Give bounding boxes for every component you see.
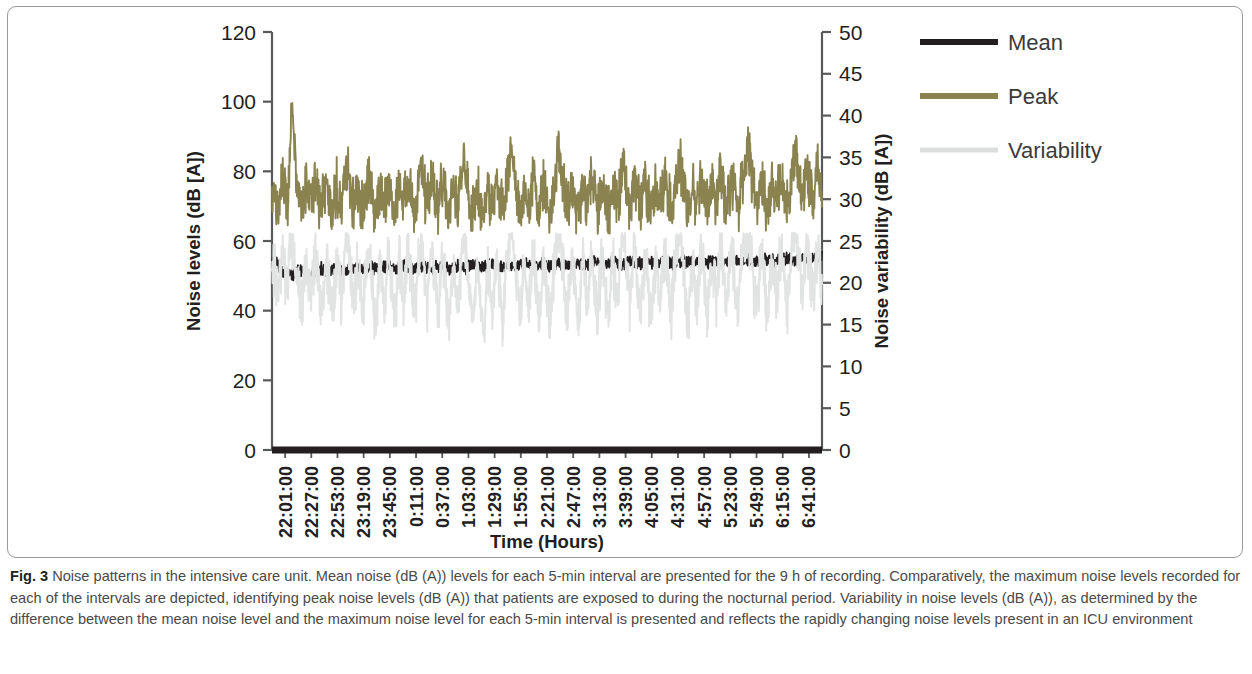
x-tick-label: 22:53:00 (328, 466, 348, 538)
x-tick-label: 6:15:00 (773, 466, 793, 528)
x-tick-label: 4:57:00 (695, 466, 715, 528)
figure-label: Fig. 3 (10, 568, 48, 584)
y-tick-label: 0 (244, 439, 256, 462)
y2-tick-label: 50 (839, 21, 862, 44)
x-tick-label: 1:55:00 (511, 466, 531, 528)
y-tick-label: 100 (221, 90, 256, 113)
x-axis-title: Time (Hours) (490, 531, 604, 552)
y-tick-label: 20 (233, 369, 256, 392)
x-tick-label: 5:49:00 (747, 466, 767, 528)
x-tick-label: 1:03:00 (459, 466, 479, 528)
x-tick-label: 6:41:00 (799, 466, 819, 528)
noise-chart: 0204060801001200510152025303540455022:01… (0, 0, 1252, 560)
x-tick-label: 2:21:00 (538, 466, 558, 528)
x-tick-label: 22:01:00 (276, 466, 296, 538)
figure-caption-text: Noise patterns in the intensive care uni… (10, 568, 1240, 627)
x-tick-label: 0:37:00 (433, 466, 453, 528)
x-tick-label: 23:45:00 (380, 466, 400, 538)
figure-caption: Fig. 3 Noise patterns in the intensive c… (10, 566, 1242, 631)
x-tick-label: 4:31:00 (668, 466, 688, 528)
x-tick-label: 3:39:00 (616, 466, 636, 528)
legend-label-mean: Mean (1008, 30, 1063, 55)
y-axis-title: Noise levels (dB [A]) (183, 151, 204, 331)
legend-label-peak: Peak (1008, 84, 1059, 109)
y-tick-label: 40 (233, 299, 256, 322)
x-tick-label: 0:11:00 (407, 466, 427, 527)
x-tick-label: 3:13:00 (590, 466, 610, 528)
x-tick-label: 4:05:00 (642, 466, 662, 528)
y2-tick-label: 45 (839, 62, 862, 85)
y2-tick-label: 15 (839, 313, 862, 336)
chart-stage: 0204060801001200510152025303540455022:01… (0, 0, 1252, 560)
series-line-variability (272, 233, 822, 346)
y2-tick-label: 20 (839, 271, 862, 294)
x-tick-label: 2:47:00 (564, 466, 584, 528)
y2-tick-label: 5 (839, 397, 851, 420)
y2-axis-title: Noise variability (dB [A]) (871, 134, 892, 349)
x-tick-label: 22:27:00 (302, 466, 322, 538)
y2-tick-label: 0 (839, 439, 851, 462)
y2-tick-label: 10 (839, 355, 862, 378)
y2-tick-label: 25 (839, 230, 862, 253)
y2-tick-label: 30 (839, 188, 862, 211)
y-tick-label: 60 (233, 230, 256, 253)
x-tick-label: 5:23:00 (721, 466, 741, 528)
figure-root: 0204060801001200510152025303540455022:01… (0, 0, 1252, 674)
y2-tick-label: 35 (839, 146, 862, 169)
x-tick-label: 23:19:00 (354, 466, 374, 538)
y-tick-label: 120 (221, 21, 256, 44)
y-tick-label: 80 (233, 160, 256, 183)
y2-tick-label: 40 (839, 104, 862, 127)
legend-label-variability: Variability (1008, 138, 1102, 163)
series-line-peak (272, 103, 822, 234)
x-tick-label: 1:29:00 (485, 466, 505, 528)
